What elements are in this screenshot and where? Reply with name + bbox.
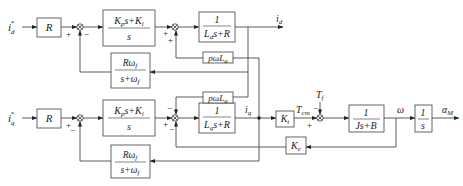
block-diagram: id* R + − Kps+Ki s + + 1 Ld [0, 0, 463, 186]
svg-text:−: − [167, 103, 172, 113]
svg-text:Js+B: Js+B [355, 120, 376, 131]
q-sum3-junction [77, 115, 83, 121]
svg-text:−: − [169, 124, 174, 134]
svg-text:+: + [163, 119, 168, 129]
omega-label: ω [397, 104, 404, 115]
d-sum2-junction [172, 24, 178, 30]
tf-label: Tf [316, 89, 325, 102]
svg-text:1: 1 [421, 107, 426, 118]
id-output-label: id [276, 13, 283, 26]
svg-text:+: + [168, 35, 173, 45]
svg-text:R: R [45, 112, 53, 124]
svg-text:1: 1 [364, 107, 369, 118]
svg-text:s: s [127, 121, 131, 132]
svg-text:+: + [66, 29, 71, 39]
svg-text:+: + [307, 120, 312, 130]
iq-output-label: iq [245, 104, 252, 117]
tcm-label: Tcm [296, 104, 310, 117]
svg-text:−: − [313, 103, 318, 113]
d-gain-label: R [45, 21, 53, 33]
svg-text:s: s [421, 120, 425, 131]
q-sum4-junction [172, 115, 178, 121]
svg-text:1: 1 [215, 105, 220, 116]
torque-sum-junction [317, 115, 323, 121]
alpha-output-label: αM [442, 104, 454, 117]
iq-ref-label: iq* [8, 110, 15, 127]
d-sum1-junction [77, 24, 83, 30]
svg-text:1: 1 [215, 14, 220, 25]
svg-text:−: − [70, 125, 75, 135]
d-pi-denominator: s [127, 31, 131, 42]
svg-text:−: − [84, 29, 89, 39]
id-ref-label: id* [8, 19, 15, 36]
